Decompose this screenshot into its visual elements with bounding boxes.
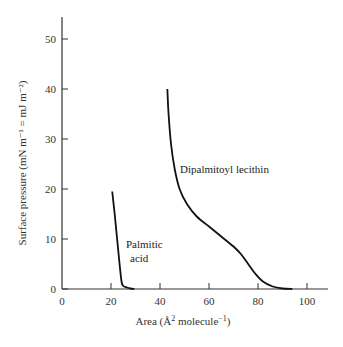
x-ticks: 020406080100 xyxy=(59,283,316,307)
axes xyxy=(62,17,328,289)
pressure-area-chart: 01020304050 020406080100 Dipalmitoyl lec… xyxy=(0,0,343,347)
x-tick-label: 20 xyxy=(106,295,118,307)
x-axis-label: Area (Å2 molecule−1) xyxy=(136,314,231,328)
x-tick-label: 40 xyxy=(155,295,167,307)
y-tick-label: 0 xyxy=(51,283,57,295)
y-tick-label: 20 xyxy=(45,183,57,195)
x-tick-label: 100 xyxy=(299,295,316,307)
x-tick-label: 60 xyxy=(204,295,216,307)
annotation-palmitic: Palmitic xyxy=(126,238,163,250)
annotation-dipalmitoyl-lecithin: Dipalmitoyl lecithin xyxy=(180,163,269,175)
y-tick-label: 50 xyxy=(45,33,57,45)
x-tick-label: 0 xyxy=(59,295,65,307)
y-tick-label: 30 xyxy=(45,133,57,145)
series-line-dipalmitoyl-lecithin xyxy=(167,89,292,289)
x-tick-label: 80 xyxy=(253,295,265,307)
y-axis-label: Surface pressure (mN m⁻¹ = mJ m⁻²) xyxy=(16,80,29,245)
y-tick-label: 10 xyxy=(45,233,57,245)
y-tick-label: 40 xyxy=(45,83,57,95)
annotation-acid: acid xyxy=(130,252,149,264)
y-ticks: 01020304050 xyxy=(45,33,68,295)
